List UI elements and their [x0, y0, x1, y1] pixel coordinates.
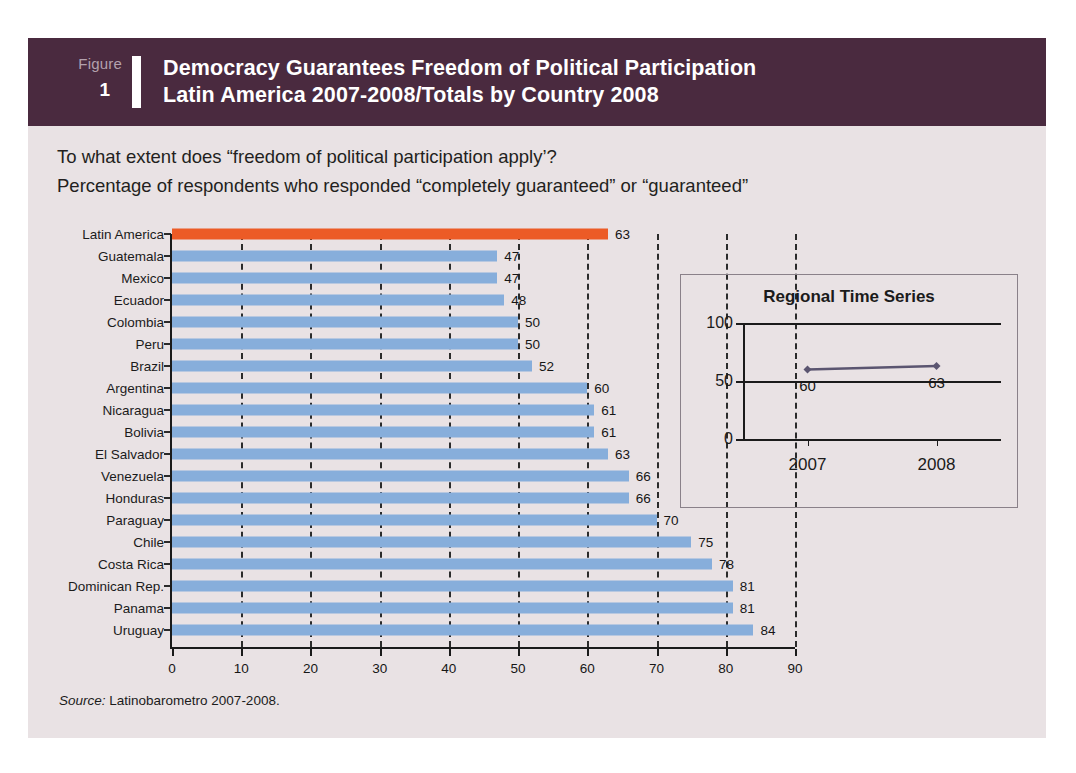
figure-badge: Figure 1 [28, 38, 132, 126]
bar [172, 273, 497, 284]
y-axis-label: Chile [133, 535, 164, 550]
bar [172, 317, 518, 328]
bar-value-label: 47 [504, 271, 519, 286]
source-label: Source: [59, 693, 106, 708]
y-axis-label: Panama [114, 601, 164, 616]
y-axis-label: Brazil [130, 359, 164, 374]
x-axis-tick-label: 40 [441, 661, 456, 676]
figure-title-block: Democracy Guarantees Freedom of Politica… [163, 55, 756, 109]
figure-badge-number: 1 [99, 79, 110, 101]
bar-value-label: 61 [601, 425, 616, 440]
bar [172, 361, 532, 372]
x-axis-tick [380, 649, 382, 656]
bar [172, 471, 629, 482]
bar-value-label: 47 [504, 249, 519, 264]
bar-value-label: 66 [636, 491, 651, 506]
inset-x-tick [808, 439, 810, 446]
bar [172, 493, 629, 504]
bar [172, 537, 691, 548]
y-axis-label: Nicaragua [102, 403, 164, 418]
inset-x-tick [937, 439, 939, 446]
inset-y-axis-label: 0 [724, 430, 733, 448]
bar [172, 251, 497, 262]
question-line-1: To what extent does “freedom of politica… [57, 142, 748, 171]
inset-gridline-100 [743, 323, 1001, 325]
inset-y-axis-label: 50 [715, 372, 733, 390]
x-axis-line [170, 647, 795, 649]
bar [172, 515, 657, 526]
bar [172, 295, 504, 306]
inset-point-value-label: 63 [928, 374, 945, 391]
bar-value-label: 61 [601, 403, 616, 418]
y-axis-label: Dominican Rep. [68, 579, 164, 594]
y-axis-label: Colombia [107, 315, 164, 330]
source-text: Latinobarometro 2007-2008. [106, 693, 280, 708]
inset-y-tick [736, 381, 743, 383]
bar-value-label: 48 [511, 293, 526, 308]
inset-data-point-marker [804, 365, 812, 373]
bar [172, 559, 712, 570]
source-note: Source: Latinobarometro 2007-2008. [59, 693, 280, 708]
bar-value-label: 52 [539, 359, 554, 374]
bar [172, 581, 733, 592]
bar-value-label: 50 [525, 337, 540, 352]
x-axis-tick [310, 649, 312, 656]
inset-series-line [808, 366, 937, 369]
y-axis-label: Uruguay [113, 623, 164, 638]
x-axis-tick-label: 20 [303, 661, 318, 676]
x-axis-tick-label: 50 [511, 661, 526, 676]
x-axis-tick [518, 649, 520, 656]
bar-value-label: 81 [740, 601, 755, 616]
bar-value-label: 66 [636, 469, 651, 484]
bar-value-label: 75 [698, 535, 713, 550]
inset-regional-time-series: Regional Time Series 050100200760200863 [680, 274, 1018, 508]
figure-title-line1: Democracy Guarantees Freedom of Politica… [163, 55, 756, 82]
bar-value-label: 70 [664, 513, 679, 528]
x-axis-tick [172, 649, 174, 656]
bar-value-label: 63 [615, 447, 630, 462]
y-axis-label: Mexico [121, 271, 164, 286]
x-axis-tick [587, 649, 589, 656]
x-axis-tick [795, 649, 797, 656]
x-axis-tick-label: 30 [372, 661, 387, 676]
figure-title-line2: Latin America 2007-2008/Totals by Countr… [163, 82, 756, 109]
y-axis-label: Costa Rica [98, 557, 164, 572]
bar-value-label: 81 [740, 579, 755, 594]
inset-gridline-50 [743, 381, 1001, 383]
x-axis-tick-label: 60 [580, 661, 595, 676]
y-axis-label: Bolivia [124, 425, 164, 440]
inset-point-value-label: 60 [799, 377, 816, 394]
bar-value-label: 60 [594, 381, 609, 396]
inset-data-point-marker [933, 362, 941, 370]
bar [172, 625, 753, 636]
x-axis-tick [449, 649, 451, 656]
inset-title: Regional Time Series [681, 287, 1017, 307]
x-axis-tick-label: 70 [649, 661, 664, 676]
bar [172, 405, 594, 416]
bar [172, 383, 587, 394]
question-line-2: Percentage of respondents who responded … [57, 171, 748, 200]
y-axis-label: El Salvador [95, 447, 164, 462]
y-axis-label: Peru [135, 337, 164, 352]
figure-badge-word: Figure [78, 55, 122, 72]
x-axis-tick [657, 649, 659, 656]
inset-y-tick [736, 439, 743, 441]
y-axis-label: Argentina [106, 381, 164, 396]
bar [172, 449, 608, 460]
inset-plot-area: 050100200760200863 [743, 323, 1001, 439]
y-axis-label: Honduras [105, 491, 164, 506]
x-axis-tick-label: 10 [234, 661, 249, 676]
header-divider-rule [132, 56, 141, 108]
bar [172, 427, 594, 438]
y-axis-label: Paraguay [106, 513, 164, 528]
y-axis-label: Ecuador [114, 293, 164, 308]
inset-gridline-0 [743, 439, 1001, 441]
x-axis-tick-label: 90 [787, 661, 802, 676]
x-axis-tick-label: 80 [718, 661, 733, 676]
question-block: To what extent does “freedom of politica… [57, 142, 748, 200]
bar [172, 229, 608, 240]
bar-value-label: 84 [760, 623, 775, 638]
bar [172, 339, 518, 350]
y-axis-label: Venezuela [101, 469, 164, 484]
y-axis-label: Guatemala [98, 249, 164, 264]
